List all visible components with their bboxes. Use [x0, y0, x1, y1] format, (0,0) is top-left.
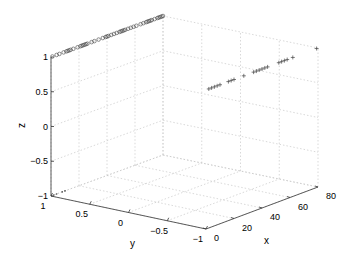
tick-label: 0 [43, 122, 48, 132]
plus-marker [226, 80, 230, 84]
z-axis-label: z [16, 123, 27, 128]
plus-marker [277, 61, 281, 65]
axes [51, 57, 318, 229]
tick-label: 20 [242, 223, 252, 233]
tick-label: −1 [38, 191, 48, 201]
tick-label: 1 [40, 201, 45, 211]
dot-marker [61, 191, 63, 193]
y-axis-label: y [130, 238, 135, 249]
tick-label: 0.5 [75, 209, 88, 219]
tick-label: 40 [270, 212, 280, 222]
tick-label: 0 [118, 218, 123, 228]
dot-marker [64, 190, 66, 192]
plus-marker [242, 74, 246, 78]
tick-label: −1 [193, 234, 203, 244]
dot-marker [56, 193, 58, 195]
tick-label: 0.5 [35, 87, 48, 97]
data-markers [51, 14, 319, 196]
x-axis-label: x [264, 235, 269, 246]
plus-marker [266, 65, 270, 69]
tick-label: 1 [43, 52, 48, 62]
plus-marker [285, 58, 289, 62]
grid-lines [51, 16, 318, 229]
dot-marker [53, 194, 55, 196]
tick-labels: 10.50−0.5−110.50−0.5−1020406080 [30, 52, 336, 244]
circle-marker [97, 38, 101, 42]
plus-marker [291, 55, 295, 59]
3d-scatter-plot: 10.50−0.5−110.50−0.5−1020406080 x y z [0, 0, 347, 261]
tick-label: −0.5 [150, 226, 168, 236]
tick-label: −0.5 [30, 156, 48, 166]
tick-label: 60 [298, 202, 308, 212]
tick-label: 80 [326, 191, 336, 201]
tick-label: 0 [214, 233, 219, 243]
plus-marker [207, 87, 211, 91]
